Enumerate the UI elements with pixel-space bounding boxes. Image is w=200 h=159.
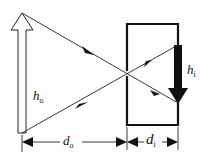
image-height-label: hi [187,63,196,79]
object-distance-label: do [63,134,74,150]
light-rays [22,13,178,133]
image-distance-label: di [146,132,156,149]
object-arrow [11,13,33,133]
object-height-label: ho [33,89,44,105]
image-arrow [168,45,188,104]
ray-diagram [0,0,200,159]
camera-box [127,24,178,125]
